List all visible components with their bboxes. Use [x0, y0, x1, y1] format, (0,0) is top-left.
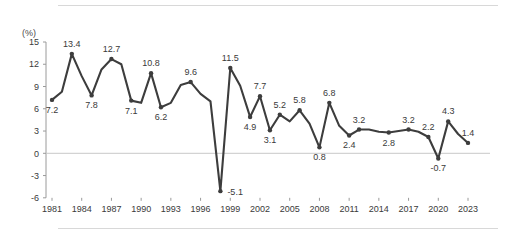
data-point-value-label: 6.8 — [323, 88, 336, 98]
data-point-value-label: 5.8 — [293, 95, 306, 105]
data-point-marker — [436, 156, 440, 160]
data-point-value-label: 10.8 — [142, 58, 160, 68]
y-axis: 15129630-3-6 — [29, 37, 46, 203]
top-divider-rule — [58, 5, 498, 6]
x-axis-tick-label: 1993 — [161, 204, 181, 214]
y-axis-tick-label: 6 — [34, 104, 39, 114]
x-axis-tick-label: 2002 — [250, 204, 270, 214]
data-point-value-label: 2.2 — [422, 122, 435, 132]
x-axis-tick-label: 1987 — [101, 204, 121, 214]
data-point-marker — [466, 141, 470, 145]
data-point-value-label: 7.7 — [254, 81, 267, 91]
x-axis-tick-label: 1996 — [191, 204, 211, 214]
x-axis-tick-label: 2011 — [339, 204, 358, 214]
y-axis-tick-label: -3 — [31, 171, 39, 181]
data-point-marker — [278, 113, 282, 117]
data-point-value-label: 12.7 — [103, 44, 121, 54]
data-point-value-label: 1.4 — [462, 128, 475, 138]
data-point-marker — [297, 108, 301, 112]
data-point-marker — [387, 130, 391, 134]
x-axis-tick-label: 1981 — [42, 204, 62, 214]
data-point-marker — [89, 93, 93, 97]
data-point-value-label: 2.8 — [383, 138, 396, 148]
data-point-value-labels: 7.213.47.812.77.110.86.29.6-5.111.54.97.… — [46, 39, 475, 197]
data-point-value-label: 6.2 — [155, 112, 168, 122]
data-point-value-label: 3.1 — [264, 135, 277, 145]
data-point-marker — [149, 71, 153, 75]
data-point-value-label: 7.2 — [46, 105, 59, 115]
data-point-value-label: -0.7 — [431, 163, 447, 173]
data-point-marker — [327, 101, 331, 105]
data-point-value-label: 0.8 — [313, 152, 326, 162]
data-point-value-label: 13.4 — [63, 39, 81, 49]
y-axis-tick-label: -6 — [31, 193, 39, 203]
x-axis-tick-label: 2014 — [369, 204, 389, 214]
data-point-value-label: 7.8 — [85, 100, 98, 110]
x-axis-tick-label: 2005 — [280, 204, 300, 214]
x-axis-tick-label: 2017 — [399, 204, 419, 214]
data-point-marker — [218, 189, 222, 193]
data-point-marker — [50, 98, 54, 102]
x-axis-tick-label: 2020 — [428, 204, 448, 214]
data-point-marker — [406, 127, 410, 131]
data-point-marker — [70, 52, 74, 56]
y-axis-tick-label: 12 — [29, 59, 39, 69]
chart-plot-area: 15129630-3-6 198119841987199019931996199… — [0, 0, 511, 233]
data-point-value-label: 7.1 — [125, 106, 138, 116]
x-axis-tick-label: 1990 — [131, 204, 151, 214]
data-point-marker — [159, 105, 163, 109]
data-point-marker — [446, 119, 450, 123]
data-point-marker — [268, 128, 272, 132]
data-point-value-label: 3.2 — [353, 115, 366, 125]
y-axis-tick-label: 0 — [34, 149, 39, 159]
y-axis-unit-label: (%) — [22, 28, 36, 38]
data-point-value-label: 3.2 — [402, 115, 415, 125]
data-point-marker — [188, 80, 192, 84]
x-axis-tick-label: 2008 — [309, 204, 329, 214]
bottom-divider-rule — [58, 228, 498, 229]
data-point-value-label: 4.9 — [244, 122, 257, 132]
data-point-marker — [357, 127, 361, 131]
x-axis-tick-label: 1984 — [72, 204, 92, 214]
data-point-marker — [258, 94, 262, 98]
data-point-value-label: 9.6 — [184, 67, 197, 77]
data-point-marker — [129, 98, 133, 102]
data-point-marker — [228, 66, 232, 70]
data-point-marker — [426, 135, 430, 139]
y-axis-tick-label: 15 — [29, 37, 39, 47]
data-point-value-label: 4.3 — [442, 106, 455, 116]
line-chart-figure: (%) 15129630-3-6 19811984198719901993199… — [0, 0, 511, 233]
data-point-value-label: 11.5 — [222, 53, 239, 63]
x-axis-tick-label: 2023 — [458, 204, 478, 214]
data-point-value-label: 2.4 — [343, 140, 356, 150]
y-axis-tick-label: 9 — [34, 82, 39, 92]
y-axis-tick-label: 3 — [34, 126, 39, 136]
x-axis: 1981198419871990199319961999200220052008… — [42, 198, 478, 214]
data-point-value-label: -5.1 — [227, 187, 243, 197]
data-point-marker — [317, 145, 321, 149]
x-axis-tick-label: 1999 — [220, 204, 240, 214]
data-point-marker — [248, 115, 252, 119]
data-point-marker — [109, 57, 113, 61]
data-point-value-label: 5.2 — [274, 100, 287, 110]
data-point-marker — [347, 133, 351, 137]
